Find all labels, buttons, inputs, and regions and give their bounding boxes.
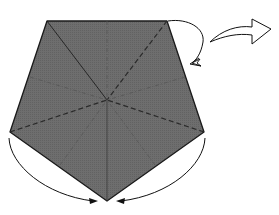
turn-over-arrow (210, 19, 271, 44)
origami-diagram (0, 0, 279, 215)
